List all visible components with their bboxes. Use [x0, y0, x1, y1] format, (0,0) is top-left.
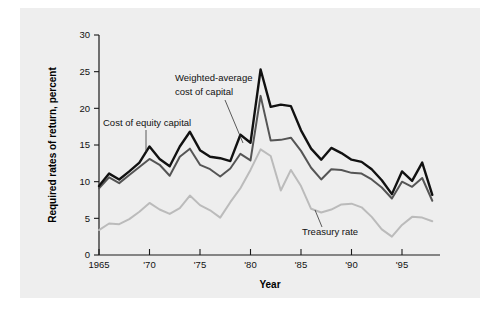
- y-axis-ticks: 051015202530: [79, 29, 99, 260]
- x-tick-label: '75: [194, 259, 206, 270]
- annotation-wacc-label-line2: cost of capital: [175, 86, 233, 97]
- annotation-wacc-leader: [225, 100, 243, 143]
- x-axis-ticks: 1965'70'75'80'85'90'95: [88, 249, 408, 270]
- annotation-cost-of-equity-label: Cost of equity capital: [103, 117, 191, 128]
- chart-figure: 051015202530 1965'70'75'80'85'90'95 Requ…: [0, 0, 497, 319]
- line-chart: 051015202530 1965'70'75'80'85'90'95 Requ…: [0, 0, 497, 319]
- y-tick-label: 5: [85, 213, 90, 224]
- x-tick-label: '95: [396, 259, 408, 270]
- x-tick-label: '85: [295, 259, 307, 270]
- y-tick-label: 20: [79, 103, 90, 114]
- y-tick-label: 10: [79, 176, 90, 187]
- annotation-wacc-label-line1: Weighted-average: [175, 72, 252, 83]
- y-tick-label: 25: [79, 66, 90, 77]
- y-axis-title: Required rates of return, percent: [47, 67, 58, 223]
- x-tick-label: '90: [345, 259, 357, 270]
- y-tick-label: 15: [79, 139, 90, 150]
- series-line-cost-of-equity-capital: [99, 69, 432, 194]
- x-axis-title: Year: [259, 279, 280, 290]
- x-tick-label: '80: [244, 259, 256, 270]
- series-line-treasury-rate: [99, 149, 432, 236]
- y-tick-label: 30: [79, 29, 90, 40]
- chart-series-group: [99, 69, 432, 236]
- x-tick-label: 1965: [88, 259, 109, 270]
- x-tick-label: '70: [143, 259, 155, 270]
- annotation-treasury-label: Treasury rate: [302, 226, 358, 237]
